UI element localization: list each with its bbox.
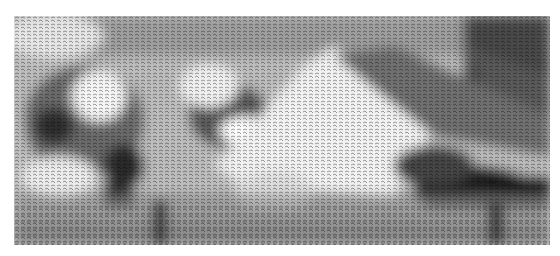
dithered-photo — [14, 16, 550, 245]
photo-render — [14, 16, 550, 245]
dash-texture — [14, 206, 550, 245]
